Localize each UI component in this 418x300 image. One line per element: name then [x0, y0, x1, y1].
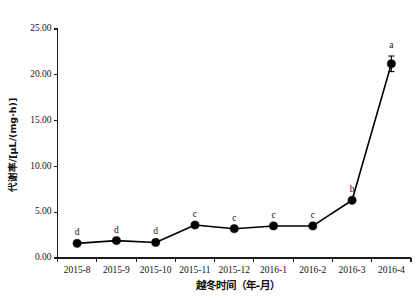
significance-letter: c — [193, 209, 197, 219]
y-tick-label: 20.00 — [30, 69, 52, 79]
y-tick-label: 0.00 — [35, 252, 52, 262]
x-tick-label: 2016-2 — [299, 265, 326, 275]
significance-letter: c — [311, 210, 315, 220]
x-tick-label: 2016-4 — [378, 265, 405, 275]
y-axis: 0.005.0010.0015.0020.0025.00 — [30, 23, 57, 262]
y-axis-title: 代谢率/[μL/(mg·h)] — [7, 98, 18, 193]
significance-letter: c — [232, 213, 236, 223]
data-point-marker — [230, 225, 238, 233]
x-tick-label: 2015-10 — [140, 265, 172, 275]
chart-figure: 0.005.0010.0015.0020.0025.00 2015-82015-… — [0, 0, 418, 300]
y-tick-label: 15.00 — [30, 115, 52, 125]
y-tick-label: 25.00 — [30, 23, 52, 33]
significance-letters: dddccccba — [75, 40, 394, 237]
data-point-marker — [73, 239, 81, 247]
x-axis-tick-labels: 2015-82015-92015-102015-112015-122016-12… — [64, 265, 405, 275]
significance-letter: d — [114, 225, 119, 235]
significance-letter: a — [389, 40, 394, 50]
x-axis: 2015-82015-92015-102015-112015-122016-12… — [58, 258, 412, 275]
significance-letter: d — [153, 226, 158, 236]
x-tick-label: 2015-11 — [179, 265, 211, 275]
data-point-marker — [269, 222, 277, 230]
significance-letter: d — [75, 227, 80, 237]
x-tick-label: 2015-8 — [64, 265, 91, 275]
x-axis-title: 越冬时间（年-月） — [195, 279, 280, 291]
x-tick-label: 2016-3 — [339, 265, 366, 275]
x-tick-label: 2015-9 — [103, 265, 130, 275]
significance-letter: c — [271, 210, 275, 220]
data-point-marker — [348, 196, 356, 204]
y-axis-tick-labels: 0.005.0010.0015.0020.0025.00 — [30, 23, 52, 262]
metabolic-rate-line-chart: 0.005.0010.0015.0020.0025.00 2015-82015-… — [0, 0, 418, 300]
data-point-marker — [112, 236, 120, 244]
significance-letter: b — [350, 184, 355, 194]
y-tick-label: 10.00 — [30, 161, 52, 171]
data-point-marker — [191, 221, 199, 229]
data-point-marker — [387, 60, 395, 68]
y-tick-label: 5.00 — [35, 206, 52, 216]
x-tick-label: 2015-12 — [218, 265, 250, 275]
data-point-marker — [152, 238, 160, 246]
x-tick-label: 2016-1 — [260, 265, 287, 275]
data-point-marker — [309, 222, 317, 230]
